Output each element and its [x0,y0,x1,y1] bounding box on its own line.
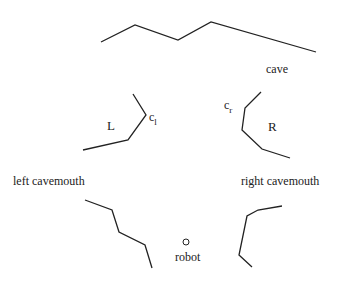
cave-diagram: cave L cl cr R left cavemouth right cave… [0,0,349,285]
left-wall-lower [85,200,152,268]
robot-label: robot [175,251,200,263]
corner-cl-label: cl [149,111,157,123]
robot-marker-icon [183,239,189,245]
corner-cl-subscript: l [154,117,157,127]
right-wall-lower [239,206,282,267]
region-L-label: L [107,119,115,132]
left-cavemouth-label: left cavemouth [13,175,85,187]
right-cavemouth-label: right cavemouth [241,175,319,187]
region-R-label: R [268,120,277,133]
corner-cr-label: cr [224,99,232,111]
corner-cr-subscript: r [229,105,232,115]
cave-label: cave [266,63,288,75]
cave-wall-top [101,22,316,52]
right-wall-upper [242,92,290,158]
diagram-canvas [0,0,349,285]
